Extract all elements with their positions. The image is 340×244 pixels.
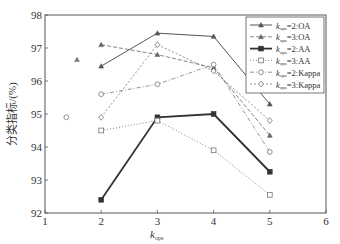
square-marker	[259, 46, 264, 51]
square-marker	[155, 118, 160, 123]
circle-marker	[259, 70, 264, 75]
y-tick-label: 92	[31, 207, 42, 219]
square-marker	[267, 192, 272, 197]
square-marker	[99, 197, 104, 202]
x-tick-label: 2	[98, 215, 104, 227]
square-marker	[99, 128, 104, 133]
square-marker	[267, 169, 272, 174]
line-chart: 92939495969798 123456 分类指标/(%) kops kops…	[0, 0, 340, 244]
circle-marker	[64, 115, 69, 120]
y-tick-label: 94	[31, 141, 43, 153]
circle-marker	[211, 62, 216, 67]
square-marker	[259, 58, 264, 63]
legend: kops=2:OAkops=3:OAkops=2:AAkops=3:AAkops…	[246, 17, 324, 93]
y-tick-label: 98	[31, 9, 43, 21]
circle-marker	[99, 92, 104, 97]
y-tick-label: 95	[31, 108, 43, 120]
x-axis-label: kops	[150, 228, 164, 241]
x-tick-label: 1	[42, 215, 48, 227]
x-tick-label: 6	[323, 215, 329, 227]
y-axis-label: 分类指标/(%)	[5, 82, 19, 146]
y-tick-label: 93	[31, 174, 43, 186]
circle-marker	[155, 82, 160, 87]
square-marker	[211, 148, 216, 153]
x-tick-label: 5	[267, 215, 273, 227]
circle-marker	[267, 150, 272, 155]
x-tick-label: 3	[155, 215, 161, 227]
square-marker	[211, 112, 216, 117]
x-tick-label: 4	[211, 215, 217, 227]
y-tick-label: 97	[31, 42, 43, 54]
y-tick-label: 96	[31, 75, 43, 87]
